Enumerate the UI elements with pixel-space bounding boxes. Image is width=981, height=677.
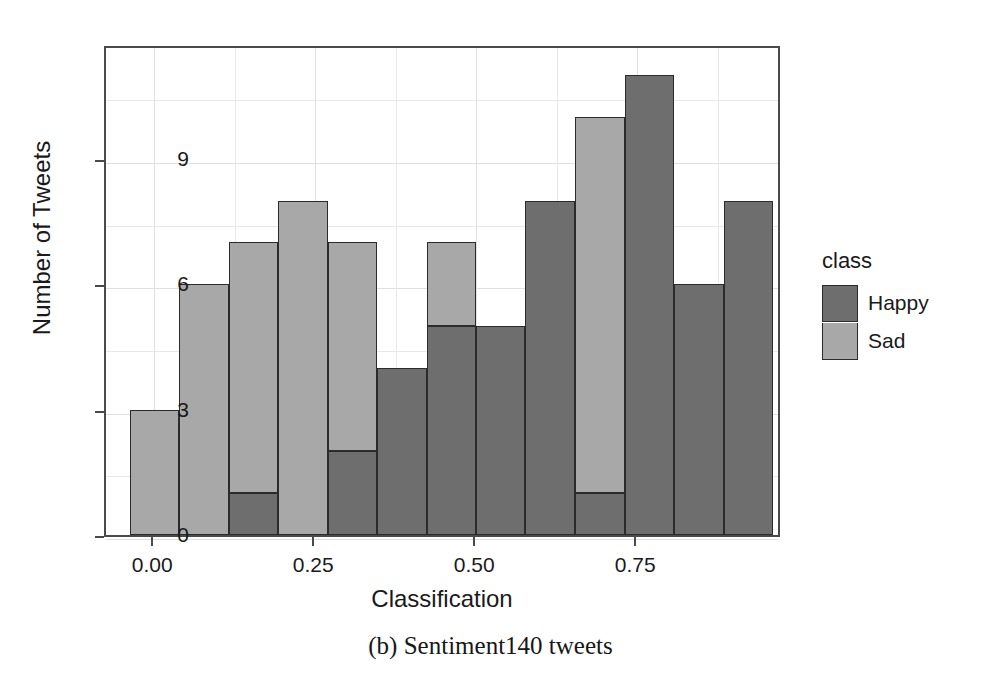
- plot-area: [104, 46, 780, 537]
- x-tick-mark: [151, 537, 153, 546]
- y-tick-mark: [95, 411, 104, 413]
- y-tick-label: 6: [149, 272, 189, 296]
- x-tick-label: 0.75: [595, 553, 675, 577]
- bar-segment-sad[interactable]: [427, 242, 477, 326]
- legend-label: Happy: [868, 291, 929, 315]
- bar-stack[interactable]: [674, 44, 724, 535]
- legend-swatch-happy: [822, 285, 858, 322]
- bar-segment-sad[interactable]: [278, 201, 328, 535]
- bars-layer: [106, 48, 778, 535]
- bar-segment-happy[interactable]: [674, 284, 724, 535]
- x-tick-label: 0.50: [434, 553, 514, 577]
- bar-stack[interactable]: [575, 44, 625, 535]
- figure-sentiment140: 0369 0.000.250.500.75 Number of Tweets C…: [0, 0, 981, 677]
- bar-segment-sad[interactable]: [328, 242, 378, 451]
- legend-title: class: [822, 248, 929, 274]
- legend-entry[interactable]: Sad: [822, 322, 929, 360]
- bar-segment-happy[interactable]: [625, 75, 675, 535]
- y-tick-label: 0: [149, 523, 189, 547]
- y-tick-label: 9: [149, 147, 189, 171]
- legend: class HappySad: [822, 248, 929, 360]
- y-axis-title: Number of Tweets: [28, 68, 56, 408]
- bar-stack[interactable]: [328, 44, 378, 535]
- x-tick-mark: [473, 537, 475, 546]
- legend-label: Sad: [868, 329, 905, 353]
- legend-swatch-sad: [822, 323, 858, 360]
- bar-stack[interactable]: [724, 44, 774, 535]
- y-tick-label: 3: [149, 398, 189, 422]
- x-tick-label: 0.25: [273, 553, 353, 577]
- bar-segment-sad[interactable]: [575, 117, 625, 493]
- bar-stack[interactable]: [278, 44, 328, 535]
- figure-caption: (b) Sentiment140 tweets: [0, 632, 981, 660]
- bar-segment-happy[interactable]: [575, 493, 625, 535]
- legend-entries: HappySad: [822, 284, 929, 360]
- y-tick-mark: [95, 160, 104, 162]
- bar-segment-happy[interactable]: [328, 451, 378, 535]
- bar-stack[interactable]: [625, 44, 675, 535]
- legend-entry[interactable]: Happy: [822, 284, 929, 322]
- x-tick-mark: [634, 537, 636, 546]
- bar-segment-sad[interactable]: [130, 410, 180, 535]
- x-tick-label: 0.00: [112, 553, 192, 577]
- bar-stack[interactable]: [525, 44, 575, 535]
- bar-segment-happy[interactable]: [476, 326, 526, 535]
- bar-segment-sad[interactable]: [229, 242, 279, 493]
- bar-segment-happy[interactable]: [724, 201, 774, 535]
- x-axis-title: Classification: [104, 585, 780, 613]
- y-tick-mark: [95, 536, 104, 538]
- bar-stack[interactable]: [229, 44, 279, 535]
- bar-stack[interactable]: [377, 44, 427, 535]
- bar-stack[interactable]: [427, 44, 477, 535]
- bar-segment-happy[interactable]: [377, 368, 427, 535]
- bar-stack[interactable]: [476, 44, 526, 535]
- bar-segment-happy[interactable]: [525, 201, 575, 535]
- x-tick-mark: [312, 537, 314, 546]
- bar-segment-happy[interactable]: [229, 493, 279, 535]
- bar-segment-happy[interactable]: [427, 326, 477, 535]
- gridline-horizontal: [106, 539, 778, 540]
- y-tick-mark: [95, 285, 104, 287]
